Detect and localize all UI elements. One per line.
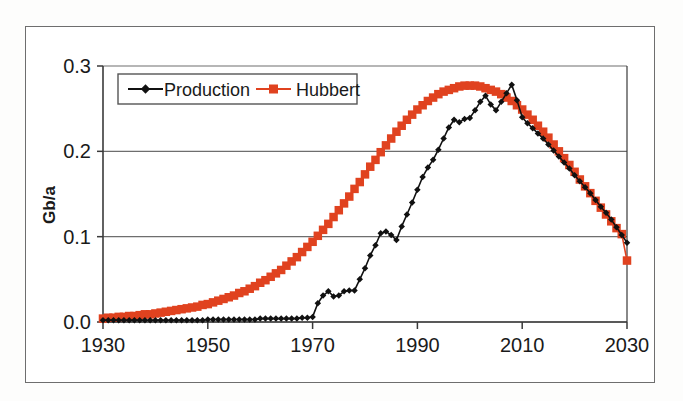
y-axis-tick-labels: 0.00.10.20.3 bbox=[63, 55, 91, 333]
x-tick-label: 1990 bbox=[395, 334, 440, 356]
diamond-marker-icon bbox=[357, 276, 364, 283]
diamond-marker-icon bbox=[409, 199, 416, 206]
diamond-marker-icon bbox=[304, 314, 311, 321]
series-hubbert bbox=[99, 81, 632, 322]
diamond-marker-icon bbox=[372, 242, 379, 249]
diamond-marker-icon bbox=[419, 174, 426, 181]
figure-root: 0.00.10.20.3 193019501970199020102030 Gb… bbox=[0, 0, 683, 401]
diamond-marker-icon bbox=[351, 287, 358, 294]
y-tick-label: 0.1 bbox=[63, 226, 91, 248]
square-marker-icon bbox=[371, 156, 380, 165]
series-production bbox=[100, 82, 631, 324]
x-tick-label: 1970 bbox=[290, 334, 335, 356]
square-marker-icon bbox=[361, 170, 370, 179]
square-marker-icon bbox=[269, 85, 278, 94]
diamond-marker-icon bbox=[404, 211, 411, 218]
square-marker-icon bbox=[356, 178, 365, 187]
square-marker-icon bbox=[623, 256, 632, 265]
tick-marks bbox=[97, 66, 627, 329]
legend-label-hubbert: Hubbert bbox=[296, 80, 360, 100]
diamond-marker-icon bbox=[367, 252, 374, 259]
series-line-hubbert bbox=[103, 86, 627, 319]
hubbert-production-line-chart: 0.00.10.20.3 193019501970199020102030 Gb… bbox=[0, 0, 683, 401]
diamond-marker-icon bbox=[377, 230, 384, 237]
diamond-marker-icon bbox=[294, 315, 301, 322]
x-tick-label: 1950 bbox=[186, 334, 231, 356]
square-marker-icon bbox=[345, 192, 354, 201]
x-tick-label: 2010 bbox=[500, 334, 545, 356]
y-tick-label: 0.3 bbox=[63, 55, 91, 77]
y-tick-label: 0.2 bbox=[63, 140, 91, 162]
series-line-production bbox=[103, 85, 627, 321]
diamond-marker-icon bbox=[362, 265, 369, 272]
x-axis-tick-labels: 193019501970199020102030 bbox=[81, 334, 650, 356]
x-tick-label: 1930 bbox=[81, 334, 126, 356]
diamond-marker-icon bbox=[398, 223, 405, 230]
diamond-marker-icon bbox=[414, 186, 421, 193]
legend-label-production: Production bbox=[164, 80, 250, 100]
y-tick-label: 0.0 bbox=[63, 311, 91, 333]
chart-legend: Production Hubbert bbox=[118, 74, 360, 104]
x-tick-label: 2030 bbox=[605, 334, 650, 356]
diamond-marker-icon bbox=[309, 314, 316, 321]
diamond-marker-icon bbox=[440, 135, 447, 142]
y-axis-title: Gb/a bbox=[40, 186, 59, 224]
